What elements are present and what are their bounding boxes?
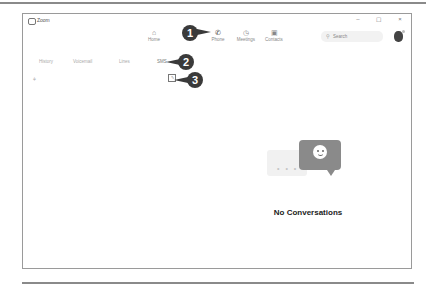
search-input[interactable]: ⚲ Search <box>321 31 383 42</box>
nav-meetings[interactable]: ◷ Meetings <box>231 28 261 42</box>
callout-1: 1 <box>182 25 198 41</box>
status-dot <box>402 30 405 33</box>
bubble-tail <box>327 170 335 176</box>
smiley-face-icon <box>313 145 327 159</box>
phone-tabs: History Voicemail Lines SMS <box>23 58 411 68</box>
window-title: Zoom <box>37 17 50 23</box>
nav-phone-label: Phone <box>203 37 233 42</box>
callout-1-arrow <box>197 29 211 35</box>
no-conversations-illustration: • • • <box>267 136 347 194</box>
contacts-icon: ▣ <box>271 29 278 36</box>
filter-icon[interactable]: ⫩ <box>33 76 36 83</box>
smiley-eye <box>317 150 319 152</box>
tab-voicemail[interactable]: Voicemail <box>73 59 92 64</box>
minimize-button[interactable]: – <box>353 16 363 22</box>
tab-lines[interactable]: Lines <box>119 59 130 64</box>
home-icon: ⌂ <box>151 29 158 36</box>
nav-home-label: Home <box>139 37 169 42</box>
smiley-eye <box>322 150 324 152</box>
top-rule <box>0 2 426 4</box>
nav-home[interactable]: ⌂ Home <box>139 28 169 42</box>
typing-dots-icon: • • • <box>277 165 298 172</box>
phone-icon: ✆ <box>215 29 222 36</box>
nav-contacts[interactable]: ▣ Contacts <box>259 28 289 42</box>
nav-meetings-label: Meetings <box>231 37 261 42</box>
title-bar: Zoom – ☐ × <box>23 14 411 28</box>
nav-contacts-label: Contacts <box>259 37 289 42</box>
callout-3: 3 <box>187 72 203 88</box>
callout-2: 2 <box>178 54 194 70</box>
empty-state-title: No Conversations <box>253 208 363 217</box>
zoom-app-icon <box>28 18 36 25</box>
clock-icon: ◷ <box>243 29 250 36</box>
search-icon: ⚲ <box>326 33 330 39</box>
zoom-window: Zoom – ☐ × ⌂ Home ✆ Phone ◷ Meetings ▣ C… <box>22 13 412 269</box>
bottom-rule <box>22 282 414 284</box>
search-placeholder: Search <box>333 34 347 39</box>
tab-history[interactable]: History <box>39 59 53 64</box>
close-button[interactable]: × <box>395 16 405 22</box>
maximize-button[interactable]: ☐ <box>373 16 383 23</box>
callout-3-arrow <box>174 77 188 83</box>
